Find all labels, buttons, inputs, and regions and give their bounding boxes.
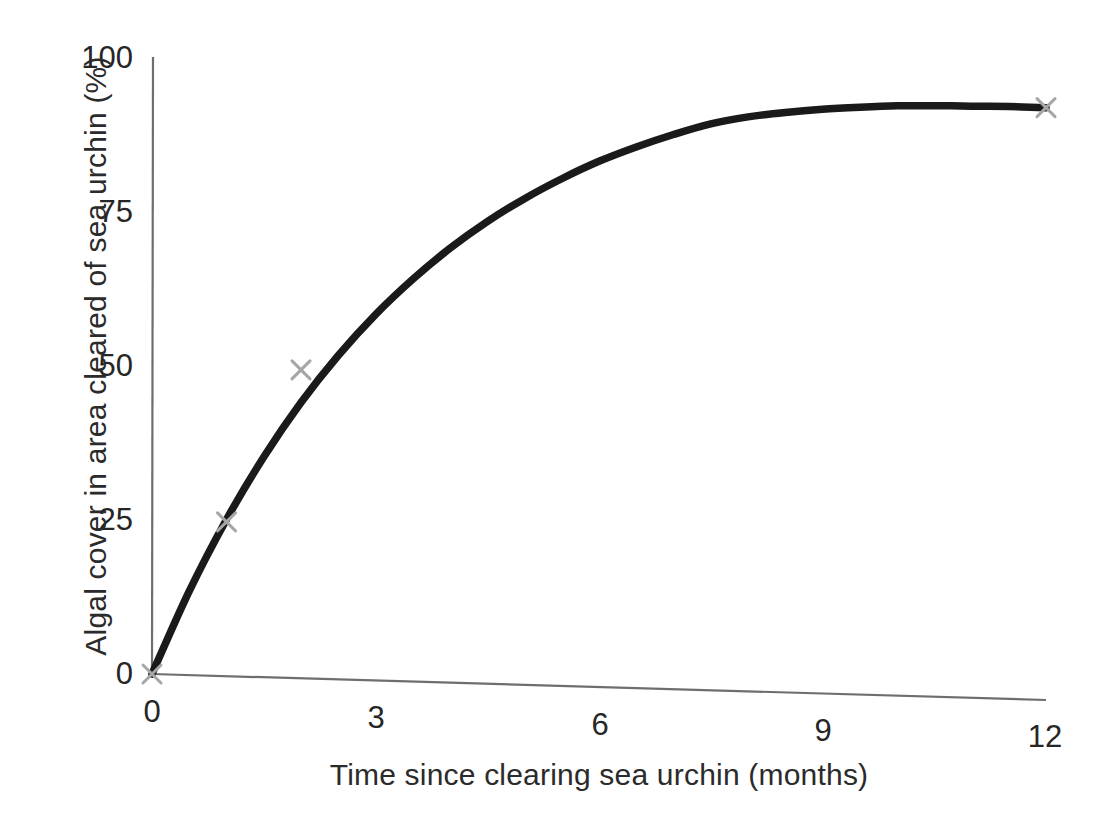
x-axis-line (152, 674, 1046, 700)
y-axis-title: Algal cover in area cleared of sea urchi… (79, 46, 113, 666)
x-tick-label-0: 0 (143, 694, 160, 730)
data-point-marker (292, 361, 310, 379)
chart-figure: 100 75 50 25 0 0 3 6 9 12 Algal cover in… (0, 0, 1106, 837)
y-tick-label-0: 0 (116, 656, 133, 692)
chart-plot-area (0, 0, 1106, 837)
x-tick-label-9: 9 (814, 713, 831, 749)
x-tick-label-12: 12 (1028, 719, 1062, 755)
data-point-markers (143, 99, 1055, 683)
x-tick-label-3: 3 (367, 700, 384, 736)
y-axis-line (152, 57, 153, 675)
x-tick-label-6: 6 (591, 707, 608, 743)
x-axis-title: Time since clearing sea urchin (months) (153, 758, 1045, 792)
data-series-curve (152, 106, 1046, 674)
